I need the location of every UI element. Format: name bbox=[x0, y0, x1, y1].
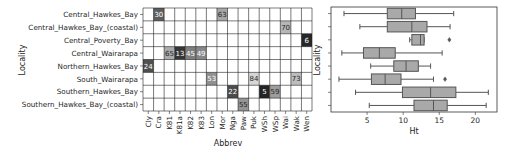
heatmap-x-tick-label: Lon bbox=[207, 116, 216, 129]
boxplot-x-tick-label: 15 bbox=[434, 116, 444, 125]
heatmap-x-tick-label: Wen bbox=[302, 116, 311, 132]
heatmap-y-tick-label: Central_Hawkes_Bay_(coastal) bbox=[28, 23, 138, 32]
heatmap-cell-label: 45 bbox=[186, 50, 195, 58]
heatmap-y-tick-label: Central_Poverty_Bay bbox=[64, 36, 139, 45]
heatmap-x-tick-label: K82 bbox=[186, 116, 195, 130]
heatmap-y-axis-label: Locality bbox=[18, 44, 27, 75]
heatmap-x-tick-label: K83 bbox=[197, 116, 206, 130]
heatmap-cell-label: 22 bbox=[228, 88, 237, 96]
heatmap-cell-label: 70 bbox=[281, 24, 290, 32]
boxplot-y-axis-label: Locality bbox=[313, 44, 322, 75]
heatmap-chart: 306370665134549245384732255955 Central_H… bbox=[18, 8, 312, 148]
boxplot-box bbox=[402, 87, 455, 98]
boxplot-box bbox=[387, 21, 427, 32]
heatmap-x-axis-label: Abbrev bbox=[214, 139, 243, 148]
heatmap-cell-label: 55 bbox=[239, 101, 248, 109]
heatmap-cell-label: 6 bbox=[304, 37, 309, 45]
figure: 306370665134549245384732255955 Central_H… bbox=[0, 0, 515, 151]
heatmap-x-tick-label: Cly bbox=[144, 115, 153, 127]
heatmap-x-tick-label: Paw bbox=[239, 116, 248, 130]
boxplot-x-tick-label: 5 bbox=[365, 116, 370, 125]
heatmap-y-tick-label: Southern_Hawkes_Bay_(coastal) bbox=[22, 100, 138, 109]
heatmap-x-tick-label: K81a bbox=[175, 116, 184, 134]
heatmap-cell-label: 59 bbox=[271, 88, 280, 96]
heatmap-x-tick-label: Mor bbox=[218, 116, 227, 130]
heatmap-cell-label: 30 bbox=[154, 11, 163, 19]
boxplot-x-tick-label: 10 bbox=[398, 116, 408, 125]
heatmap-x-tick-label: WSh bbox=[260, 116, 269, 132]
heatmap-cell-label: 84 bbox=[249, 75, 258, 83]
heatmap-cell-label: 13 bbox=[176, 50, 185, 58]
heatmap-cell-label: 5 bbox=[262, 88, 266, 96]
heatmap-y-tick-label: Central_Wairarapa bbox=[72, 49, 139, 58]
heatmap-x-tick-label: Nga bbox=[228, 116, 237, 130]
heatmap-cell-label: 73 bbox=[292, 75, 301, 83]
heatmap-x-tick-label: Wak bbox=[292, 115, 301, 131]
heatmap-x-tick-label: Wai bbox=[281, 116, 290, 129]
heatmap-y-tick-label: Northern_Hawkes_Bay bbox=[58, 62, 139, 71]
boxplot-box bbox=[414, 100, 447, 111]
boxplot-chart: 5101520 Ht Locality bbox=[313, 7, 497, 136]
heatmap-x-tick-label: Puk bbox=[249, 115, 258, 129]
heatmap-y-tick-label: South_Wairarapa bbox=[77, 75, 138, 84]
heatmap-x-tick-label: WSp bbox=[271, 116, 280, 133]
heatmap-cell-label: 65 bbox=[165, 50, 174, 58]
heatmap-x-tick-label: Cra bbox=[154, 116, 163, 128]
heatmap-cell-label: 49 bbox=[197, 50, 206, 58]
boxplot-x-tick-label: 20 bbox=[471, 116, 481, 125]
heatmap-cell-label: 63 bbox=[218, 11, 227, 19]
boxplot-box bbox=[371, 74, 401, 85]
heatmap-cell-label: 53 bbox=[207, 75, 216, 83]
heatmap-y-tick-label: Southern_Hawkes_Bay bbox=[57, 87, 139, 96]
heatmap-y-tick-label: Central_Hawkes_Bay bbox=[63, 10, 138, 19]
heatmap-cell-label: 24 bbox=[144, 63, 153, 71]
heatmap-x-tick-label: K81 bbox=[165, 116, 174, 130]
boxplot-box bbox=[412, 35, 424, 46]
boxplot-x-axis-label: Ht bbox=[409, 127, 418, 136]
